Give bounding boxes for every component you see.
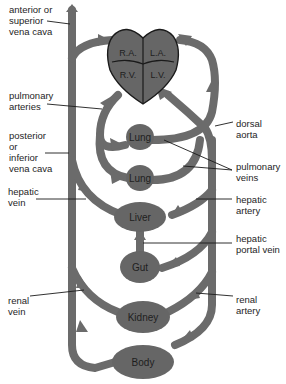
label-hepatic-artery: hepatic artery <box>236 194 267 216</box>
renal-vein-vessel <box>72 268 118 312</box>
organ-label-gut: Gut <box>132 262 148 273</box>
gut-artery-vessel <box>162 232 212 268</box>
chamber-label-la: L.A. <box>150 48 166 58</box>
arrow-icon <box>76 320 88 332</box>
organ-label-lung-upper: Lung <box>129 132 151 143</box>
label-pulmonary-veins: pulmonary veins <box>236 161 280 183</box>
anterior-vena-cava-branch <box>72 40 112 58</box>
organ-label-kidney: Kidney <box>128 312 159 323</box>
pulmonary-vein-lower <box>152 140 200 180</box>
label-hepatic-portal-vein: hepatic portal vein <box>236 233 280 255</box>
label-pulmonary-arteries: pulmonary arteries <box>9 90 53 112</box>
organ-label-lung-lower: Lung <box>129 173 151 184</box>
aortic-arch <box>168 95 212 160</box>
label-posterior-vena-cava: posterior or inferior vena cava <box>9 130 52 174</box>
renal-artery-vessel <box>168 272 212 312</box>
leader-dorsal-aorta <box>215 122 233 126</box>
label-dorsal-aorta: dorsal aorta <box>236 118 262 140</box>
circulatory-system-diagram: R.A. L.A. R.V. L.V. Lung Lung Liver Gut … <box>0 0 286 384</box>
organs: Lung Lung Liver Gut Kidney Body <box>112 124 174 379</box>
chamber-label-ra: R.A. <box>119 48 137 58</box>
chamber-label-rv: R.V. <box>120 70 137 80</box>
label-renal-vein: renal vein <box>8 295 29 317</box>
arrow-icon <box>66 4 78 12</box>
organ-label-body: Body <box>132 357 155 368</box>
label-anterior-vena-cava: anterior or superior vena cava <box>9 4 52 37</box>
label-hepatic-vein: hepatic vein <box>8 186 39 208</box>
chamber-label-lv: L.V. <box>150 70 165 80</box>
label-renal-artery: renal artery <box>236 294 260 316</box>
organ-label-liver: Liver <box>129 212 151 223</box>
